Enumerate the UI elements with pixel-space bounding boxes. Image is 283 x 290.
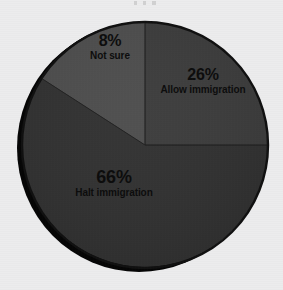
pie-chart: 8% Not sure 26% Allow immigration 66% Ha… [0, 0, 283, 290]
pie-slices [22, 22, 268, 268]
pie-chart-graphic [0, 0, 283, 290]
